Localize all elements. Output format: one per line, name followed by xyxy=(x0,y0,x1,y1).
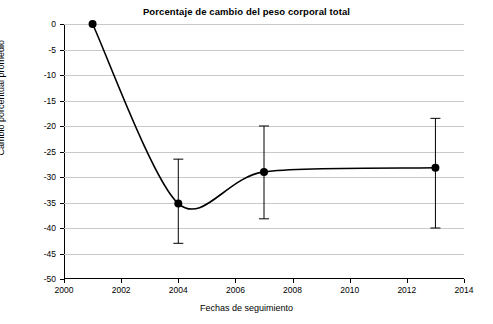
y-tick-label: -30 xyxy=(44,172,56,182)
x-tick-label: 2000 xyxy=(55,285,74,295)
plot-area: 0-5-10-15-20-25-30-35-40-45-50 200020022… xyxy=(64,24,464,279)
data-layer xyxy=(64,24,464,279)
y-tick-label: -20 xyxy=(44,121,56,131)
x-tick-mark xyxy=(64,279,65,283)
y-tick-label: 0 xyxy=(51,19,56,29)
x-tick-mark xyxy=(178,279,179,283)
y-tick-label: -45 xyxy=(44,249,56,259)
chart-container: Porcentaje de cambio del peso corporal t… xyxy=(0,0,493,324)
y-tick-label: -5 xyxy=(48,45,56,55)
y-axis-label: Cambio porcentual promedio xyxy=(0,40,6,156)
y-tick-label: -35 xyxy=(44,198,56,208)
y-tick-label: -15 xyxy=(44,96,56,106)
data-point xyxy=(431,164,439,172)
data-point xyxy=(89,20,97,28)
x-tick-label: 2006 xyxy=(226,285,245,295)
x-tick-mark xyxy=(350,279,351,283)
chart-title: Porcentaje de cambio del peso corporal t… xyxy=(0,6,493,17)
x-tick-label: 2004 xyxy=(169,285,188,295)
x-tick-label: 2008 xyxy=(283,285,302,295)
data-point xyxy=(174,200,182,208)
x-tick-mark xyxy=(464,279,465,283)
x-tick-mark xyxy=(293,279,294,283)
x-tick-mark xyxy=(235,279,236,283)
data-point xyxy=(260,168,268,176)
y-tick-label: -40 xyxy=(44,223,56,233)
y-tick-label: -25 xyxy=(44,147,56,157)
x-tick-mark xyxy=(121,279,122,283)
x-tick-label: 2014 xyxy=(455,285,474,295)
y-tick-label: -10 xyxy=(44,70,56,80)
x-tick-label: 2002 xyxy=(112,285,131,295)
x-tick-mark xyxy=(407,279,408,283)
x-axis-label: Fechas de seguimiento xyxy=(0,303,493,313)
error-bar xyxy=(430,118,440,228)
y-tick-label: -50 xyxy=(44,274,56,284)
x-tick-label: 2010 xyxy=(340,285,359,295)
x-tick-label: 2012 xyxy=(397,285,416,295)
